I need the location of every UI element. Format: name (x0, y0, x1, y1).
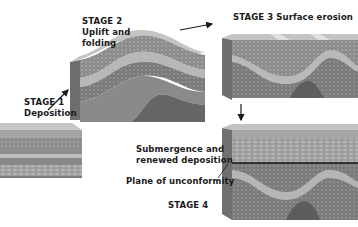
stage2-caption-line1: Uplift and (82, 27, 130, 38)
stage3-block (222, 34, 358, 100)
stage2-label: STAGE 2 (82, 16, 122, 27)
stage2-caption-line2: folding (82, 38, 116, 49)
stage4-deposition-line1: Submergence and (136, 144, 224, 155)
unconformity-label: Plane of unconformity (126, 176, 234, 187)
stage1-label: STAGE 1 (24, 97, 64, 108)
stage3-label: STAGE 3 Surface erosion (233, 12, 353, 23)
arrow-stage2-to-stage3 (180, 24, 212, 30)
stage4-deposition-line2: renewed deposition (136, 155, 233, 166)
unconformity-plane (232, 162, 358, 164)
stage4-label: STAGE 4 (168, 200, 208, 211)
stage1-block (0, 123, 82, 178)
stage4-block (222, 124, 358, 220)
stage1-caption: Deposition (24, 108, 77, 119)
